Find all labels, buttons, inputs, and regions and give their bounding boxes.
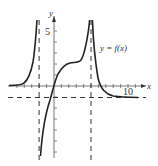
y-ticks: [54, 31, 57, 152]
function-graph: y x 5 10 y = f(x): [0, 0, 158, 166]
x-axis-arrow-icon: [141, 84, 146, 88]
x-tick-label-10: 10: [123, 86, 133, 97]
y-axis-label: y: [48, 8, 53, 18]
x-axis-label: x: [146, 81, 151, 91]
function-label: y = f(x): [99, 43, 127, 53]
curve-middle-branch: [41, 20, 90, 156]
curve-left-branch: [9, 20, 37, 86]
y-tick-label-5: 5: [45, 26, 50, 37]
